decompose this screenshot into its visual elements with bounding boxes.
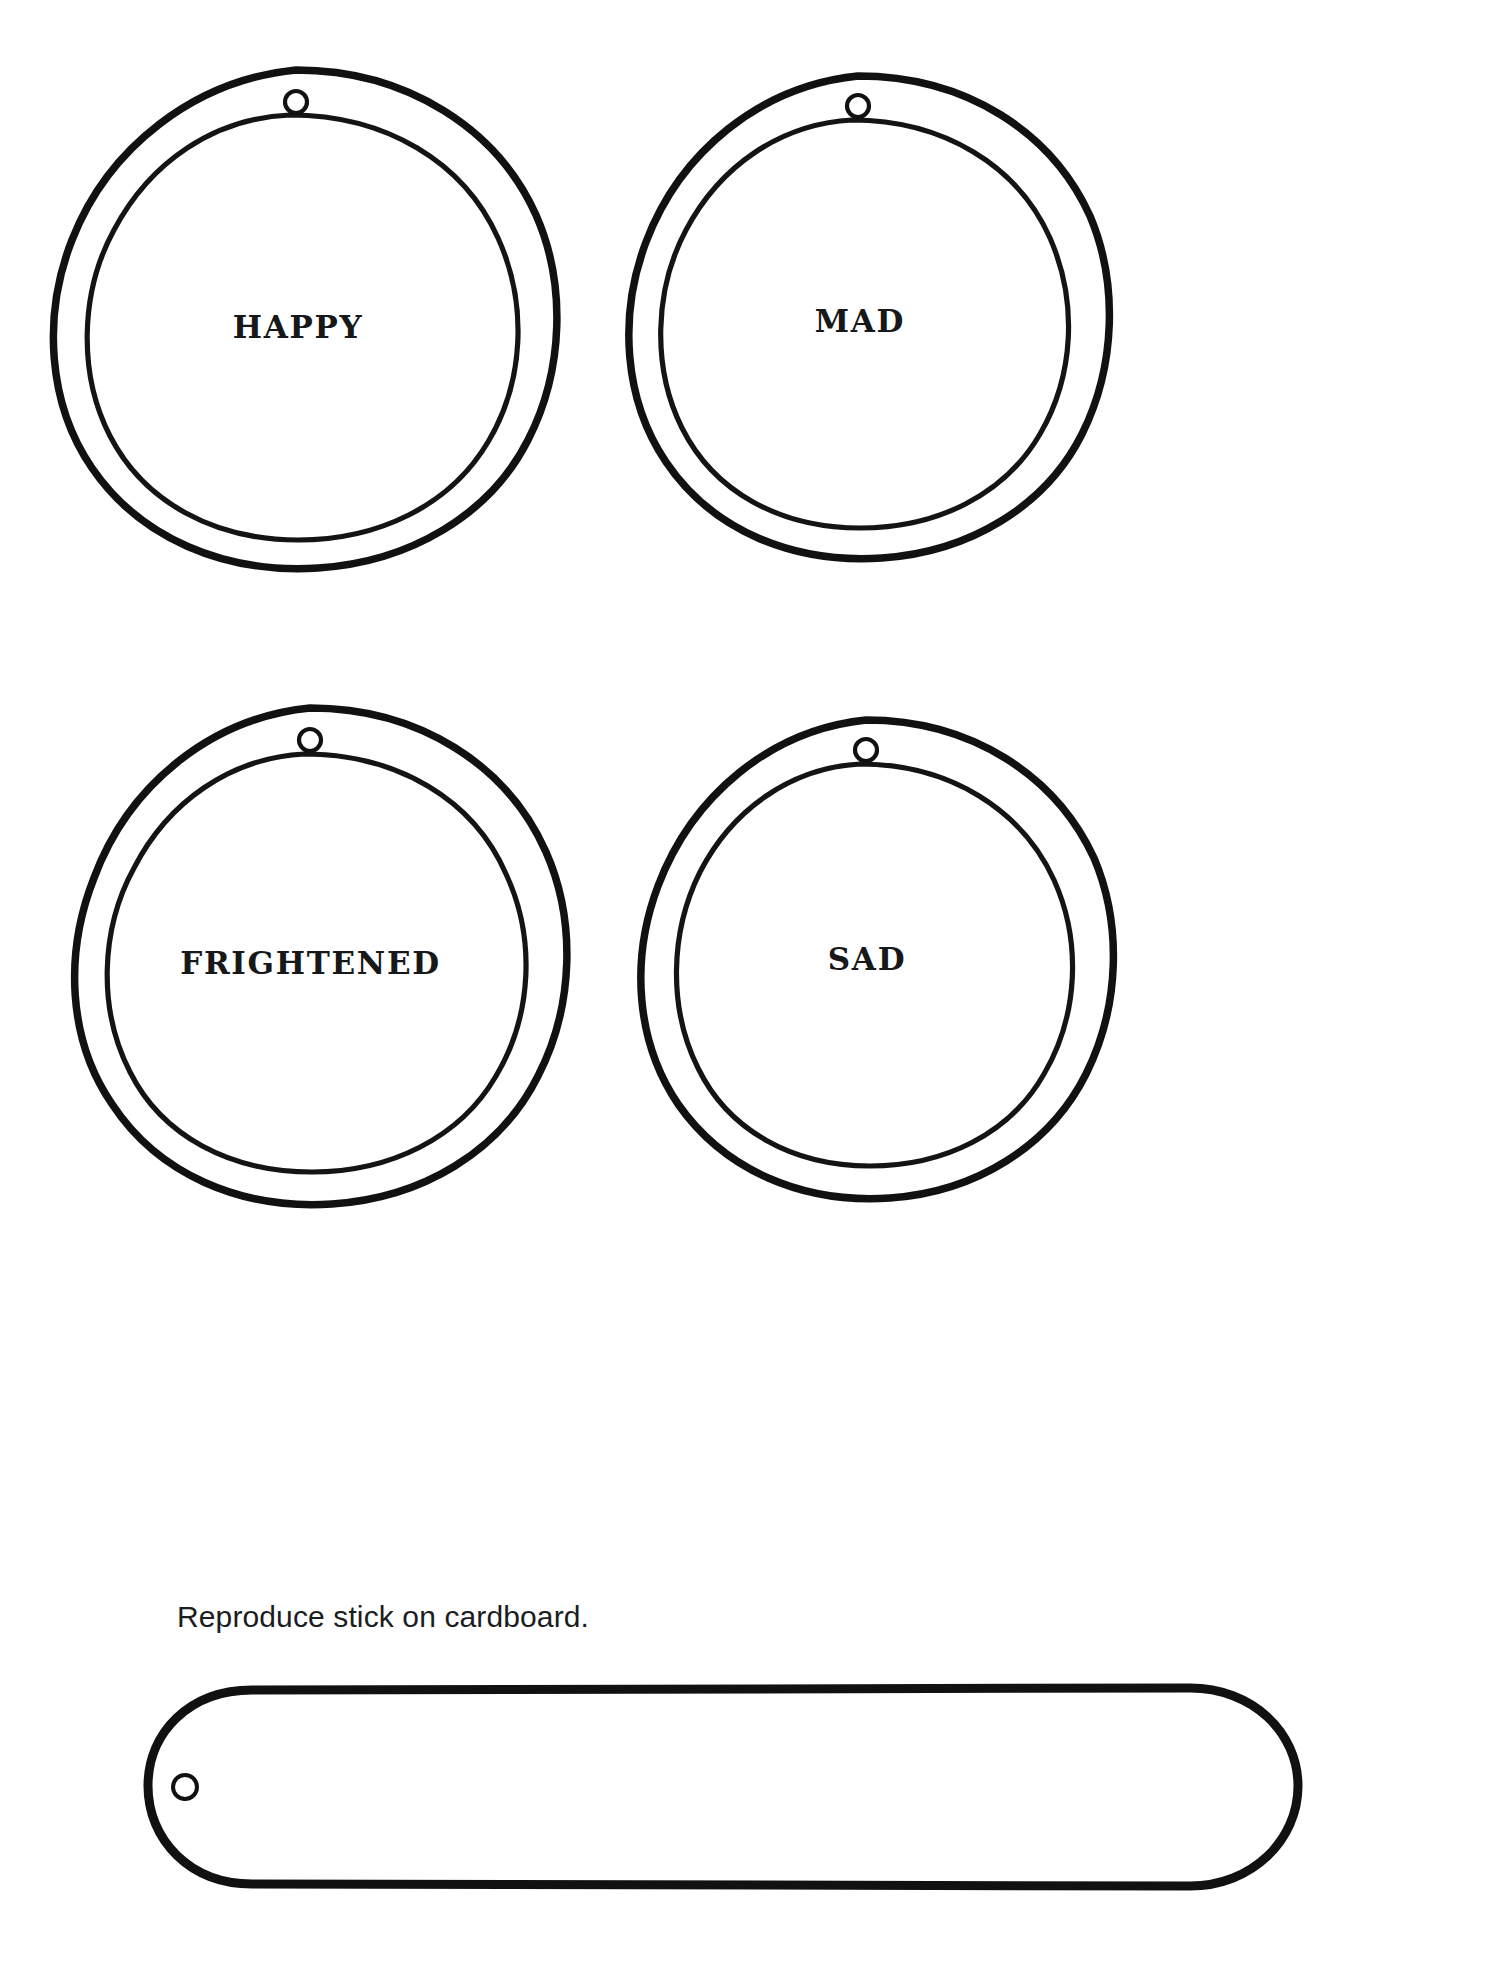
tag-label-frightened: FRIGHTENED — [48, 948, 573, 979]
cutout-stick[interactable] — [140, 1680, 1320, 1895]
worksheet-page: HAPPY MAD FRIGHTENED SAD Reproduce stick… — [0, 0, 1489, 1977]
cutout-tag-happy[interactable]: HAPPY — [28, 40, 568, 600]
punch-hole-icon — [847, 95, 869, 117]
cutout-tag-mad[interactable]: MAD — [600, 48, 1120, 593]
tag-label-happy: HAPPY — [28, 312, 568, 343]
punch-hole-icon — [173, 1775, 197, 1799]
punch-hole-icon — [299, 729, 321, 751]
instruction-caption: Reproduce stick on cardboard. — [177, 1600, 589, 1634]
tag-label-mad: MAD — [600, 306, 1120, 337]
stick-outline — [148, 1688, 1298, 1886]
punch-hole-icon — [285, 91, 307, 113]
tag-label-sad: SAD — [612, 944, 1122, 975]
cutout-tag-frightened[interactable]: FRIGHTENED — [48, 680, 573, 1240]
cutout-tag-sad[interactable]: SAD — [612, 694, 1122, 1234]
punch-hole-icon — [855, 739, 877, 761]
